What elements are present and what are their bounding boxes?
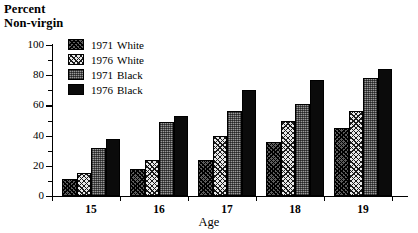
legend-swatch [68, 39, 84, 50]
x-tick-label: 17 [207, 203, 247, 215]
bar-group [334, 45, 392, 196]
x-tick [120, 196, 121, 201]
bar [281, 121, 296, 197]
legend-swatch [68, 69, 84, 80]
bar [310, 80, 325, 196]
legend-label-race: White [117, 39, 144, 51]
bar [378, 69, 393, 196]
x-tick-label: 19 [343, 203, 383, 215]
legend-swatch [68, 84, 84, 95]
x-tick [52, 196, 53, 201]
bar [77, 173, 92, 196]
bar [145, 160, 160, 196]
legend-label-year: 1971 [91, 39, 117, 51]
legend-label-race: Black [117, 84, 143, 96]
bar [349, 111, 364, 196]
y-tick-label: 60 [18, 98, 44, 110]
y-tick-label: 100 [18, 38, 44, 50]
bar [106, 139, 121, 196]
bar [198, 160, 213, 196]
bar [62, 179, 77, 196]
legend-item: 1976White [68, 53, 144, 66]
x-tick [392, 196, 393, 201]
y-tick-label: 20 [18, 159, 44, 171]
bar [159, 122, 174, 196]
legend-label: 1976White [91, 54, 144, 66]
x-tick-label: 15 [71, 203, 111, 215]
bar [334, 128, 349, 196]
legend-item: 1976Black [68, 83, 144, 96]
y-tick-label: 40 [18, 129, 44, 141]
bar [227, 111, 242, 196]
y-axis-title: Percent Non-virgin [4, 2, 63, 30]
legend-label: 1971White [91, 39, 144, 51]
bar-group [266, 45, 324, 196]
y-tick-label: 80 [18, 68, 44, 80]
legend-label-race: White [117, 54, 144, 66]
legend-label-year: 1976 [91, 54, 117, 66]
x-tick-label: 18 [275, 203, 315, 215]
legend-label-year: 1971 [91, 69, 117, 81]
legend-item: 1971Black [68, 68, 144, 81]
bar-chart: Percent Non-virgin 020406080100 15161718… [0, 0, 418, 233]
legend-item: 1971White [68, 38, 144, 51]
x-tick [188, 196, 189, 201]
bar [130, 169, 145, 196]
bar-group [198, 45, 256, 196]
bar [363, 78, 378, 196]
bar [91, 148, 106, 196]
x-tick-label: 16 [139, 203, 179, 215]
legend-label: 1971Black [91, 69, 143, 81]
y-axis-title-line-1: Percent [4, 2, 63, 16]
bar [295, 104, 310, 196]
legend-label-race: Black [117, 69, 143, 81]
x-tick [324, 196, 325, 201]
legend: 1971White1976White1971Black1976Black [68, 38, 144, 98]
legend-label: 1976Black [91, 84, 143, 96]
bar [266, 142, 281, 196]
x-axis-title: Age [0, 215, 418, 230]
legend-swatch [68, 54, 84, 65]
bar [174, 116, 189, 196]
bar [213, 136, 228, 196]
legend-label-year: 1976 [91, 84, 117, 96]
y-axis-title-line-2: Non-virgin [4, 16, 63, 30]
bar [242, 90, 257, 196]
y-tick-label: 0 [18, 189, 44, 201]
x-tick [256, 196, 257, 201]
